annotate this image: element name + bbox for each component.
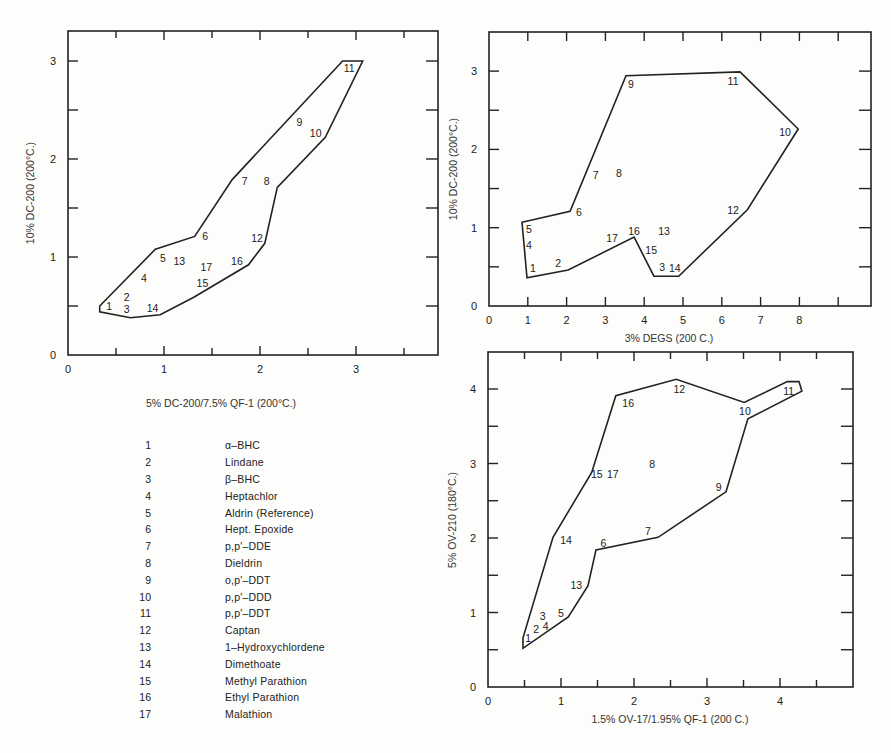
compound-point-label: 17 [607, 468, 619, 480]
compound-point-label: 14 [147, 302, 159, 314]
x-tick-label: 0 [485, 695, 491, 707]
x-tick-label: 3 [602, 314, 608, 326]
compound-point-label: 12 [251, 232, 263, 244]
chart-ov210-vs-ov17-qf1: 012340123412345678910111213141516171.5% … [446, 352, 853, 725]
compound-point-label: 10 [739, 405, 751, 417]
legend-number: 7 [117, 540, 151, 552]
compound-point-label: 8 [616, 167, 622, 179]
x-tick-label: 2 [257, 363, 263, 375]
compound-point-label: 16 [622, 397, 634, 409]
compound-point-label: 4 [526, 239, 532, 251]
legend-compound-name: o,p'–DDT [225, 574, 271, 586]
legend-compound-name: Dieldrin [225, 557, 262, 569]
y-tick-label: 3 [50, 55, 56, 67]
compound-point-label: 8 [649, 458, 655, 470]
x-tick-label: 8 [796, 314, 802, 326]
retention-envelope [522, 72, 798, 278]
y-tick-label: 3 [470, 458, 476, 470]
compound-point-label: 7 [242, 175, 248, 187]
legend-row: 2Lindane [117, 454, 437, 471]
compound-point-label: 11 [728, 75, 739, 87]
legend-number: 16 [117, 691, 151, 703]
legend-compound-name: 1–Hydroxychlordene [225, 641, 325, 653]
legend-row: 4Heptachlor [117, 487, 437, 504]
legend-number: 12 [117, 624, 151, 636]
compound-point-label: 4 [543, 620, 549, 632]
x-tick-label: 0 [65, 363, 71, 375]
y-tick-label: 4 [470, 383, 476, 395]
legend-number: 11 [117, 607, 151, 619]
x-axis-label: 3% DEGS (200 C.) [625, 332, 714, 344]
compound-point-label: 1 [530, 262, 536, 274]
legend-number: 5 [117, 507, 151, 519]
compound-point-label: 8 [264, 175, 270, 187]
x-tick-label: 2 [631, 695, 637, 707]
x-tick-label: 4 [777, 695, 783, 707]
legend-row: 17Malathion [117, 706, 437, 723]
x-tick-label: 6 [719, 314, 725, 326]
legend-row: 15Methyl Parathion [117, 672, 437, 689]
y-tick-label: 3 [471, 65, 477, 77]
compound-point-label: 3 [124, 303, 130, 315]
compound-point-label: 11 [783, 385, 794, 397]
compound-point-label: 17 [200, 261, 212, 273]
y-tick-label: 1 [50, 251, 56, 263]
compound-point-label: 9 [296, 116, 302, 128]
y-tick-label: 2 [470, 532, 476, 544]
compound-point-label: 12 [673, 383, 685, 395]
legend-compound-name: Malathion [225, 708, 272, 720]
x-tick-label: 5 [680, 314, 686, 326]
compound-point-label: 13 [570, 579, 582, 591]
legend-number: 8 [117, 557, 151, 569]
y-tick-label: 0 [471, 300, 477, 312]
compound-point-label: 2 [555, 257, 561, 269]
legend-row: 131–Hydroxychlordene [117, 639, 437, 656]
legend-number: 17 [117, 708, 151, 720]
compound-point-label: 4 [141, 272, 147, 284]
compound-point-label: 13 [658, 225, 670, 237]
x-tick-label: 3 [704, 695, 710, 707]
x-tick-label: 0 [486, 314, 492, 326]
legend-compound-name: Captan [225, 624, 260, 636]
retention-envelope [523, 379, 802, 648]
legend-compound-name: Dimethoate [225, 658, 281, 670]
chart-1-x-axis-label: 5% DC-200/7.5% QF-1 (200°C.) [146, 397, 296, 409]
compound-point-label: 5 [160, 252, 166, 264]
legend-row: 3β–BHC [117, 471, 437, 488]
legend-row: 10p,p'–DDD [117, 588, 437, 605]
compound-point-label: 9 [716, 481, 722, 493]
legend-row: 16Ethyl Parathion [117, 689, 437, 706]
compound-point-label: 10 [779, 126, 791, 138]
legend-compound-name: Lindane [225, 456, 264, 468]
legend-row: 5Aldrin (Reference) [117, 504, 437, 521]
x-tick-label: 2 [564, 314, 570, 326]
x-tick-label: 7 [758, 314, 764, 326]
compound-point-label: 14 [669, 262, 681, 274]
legend-row: 12Captan [117, 622, 437, 639]
legend-number: 9 [117, 574, 151, 586]
y-axis-label: 10% DC-200 (200°C.) [447, 118, 459, 220]
compound-point-label: 14 [560, 534, 572, 546]
legend-compound-name: β–BHC [225, 473, 260, 485]
legend-compound-name: Methyl Parathion [225, 675, 307, 687]
x-tick-label: 3 [353, 363, 359, 375]
legend-number: 15 [117, 675, 151, 687]
legend-compound-name: p,p'–DDE [225, 540, 271, 552]
legend-row: 1α–BHC [117, 437, 437, 454]
legend-row: 8Dieldrin [117, 555, 437, 572]
x-tick-label: 1 [525, 314, 531, 326]
y-tick-label: 1 [470, 607, 476, 619]
legend-compound-name: Ethyl Parathion [225, 691, 299, 703]
y-tick-label: 2 [471, 143, 477, 155]
compound-point-label: 2 [533, 623, 539, 635]
compound-point-label: 13 [174, 255, 186, 267]
legend-number: 10 [117, 591, 151, 603]
compound-point-label: 5 [526, 223, 532, 235]
compound-point-label: 15 [591, 468, 603, 480]
retention-envelope [100, 61, 363, 318]
compound-point-label: 7 [645, 525, 651, 537]
compound-point-label: 16 [628, 225, 640, 237]
y-tick-label: 1 [471, 222, 477, 234]
y-tick-label: 0 [50, 349, 56, 361]
compound-point-label: 6 [202, 230, 208, 242]
